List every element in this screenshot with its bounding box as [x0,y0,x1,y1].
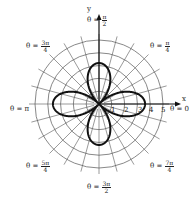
angle-label-7pi-over-4: θ = 7π4 [150,160,174,173]
radial-tick-2: 2 [124,106,128,114]
radial-tick-4: 4 [149,106,153,114]
angle-label-3pi-over-2: θ = 3π2 [87,181,111,194]
angle-label-pi-over-2: θ = π2 [87,14,107,27]
polar-rose-chart: y x θ = π2 θ = π4 θ = 3π4 θ = π θ = 0 θ … [0,0,196,203]
radial-tick-3: 3 [138,106,142,114]
grid-radial-line [38,107,94,139]
angle-label-pi-over-4: θ = π4 [150,40,170,53]
angle-label-0: θ = 0 [170,106,189,113]
angle-label-3pi-over-4: θ = 3π4 [26,40,50,53]
angle-label-pi: θ = π [10,106,29,113]
y-axis-label: y [87,6,91,13]
radial-tick-5: 5 [161,106,165,114]
grid-radial-line [103,69,159,101]
x-axis-label: x [182,96,186,103]
radial-tick-1: 1 [111,106,115,114]
grid-radial-line [38,69,94,101]
angle-label-5pi-over-4: θ = 5π4 [26,160,50,173]
